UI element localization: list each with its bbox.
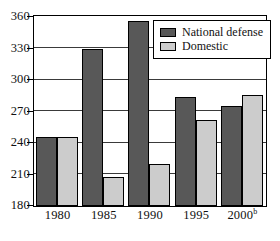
y-tick-mark-300 — [27, 79, 33, 80]
bar-1995-national-defense — [175, 97, 196, 206]
legend-item-domestic: Domestic — [160, 40, 263, 53]
legend-item-national-defense: National defense — [160, 26, 263, 39]
chart-legend: National defense Domestic — [153, 20, 271, 59]
y-tick-mark-270 — [27, 111, 33, 112]
bar-1990-national-defense — [128, 21, 149, 206]
bar-2000-domestic — [242, 95, 263, 206]
y-tick-mark-360 — [27, 16, 33, 17]
y-axis: 180210240270300330360 — [0, 0, 30, 241]
bar-group-1980 — [34, 16, 80, 206]
bar-1980-domestic — [57, 137, 78, 206]
x-tick-label-1985: 1985 — [81, 209, 127, 222]
legend-swatch-national-defense — [160, 28, 176, 37]
bar-group-1985 — [80, 16, 126, 206]
x-tick-label-2000: 2000b — [219, 209, 265, 222]
y-tick-mark-180 — [27, 205, 33, 206]
legend-label-domestic: Domestic — [182, 40, 228, 53]
bar-1985-domestic — [103, 177, 124, 206]
x-tick-label-1990: 1990 — [127, 209, 173, 222]
bar-1985-national-defense — [82, 49, 103, 207]
y-tick-mark-240 — [27, 142, 33, 143]
bar-1990-domestic — [149, 164, 170, 206]
bar-chart: 180210240270300330360 198019851990199520… — [0, 0, 280, 241]
y-tick-mark-210 — [27, 174, 33, 175]
legend-label-national-defense: National defense — [182, 26, 263, 39]
bar-1980-national-defense — [36, 137, 57, 206]
y-tick-mark-330 — [27, 48, 33, 49]
x-tick-label-1980: 1980 — [35, 209, 81, 222]
bar-1995-domestic — [196, 120, 217, 206]
x-axis: 19801985199019952000b — [33, 209, 267, 231]
x-tick-label-superscript: b — [253, 207, 257, 216]
bar-2000-national-defense — [221, 106, 242, 206]
legend-swatch-domestic — [160, 42, 176, 51]
x-tick-label-1995: 1995 — [173, 209, 219, 222]
